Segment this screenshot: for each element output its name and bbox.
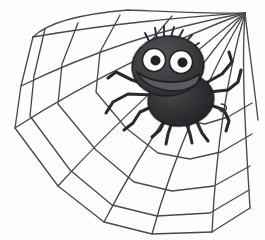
spider-web-illustration: A hand-drawn black-and-white sketch of a… (0, 0, 265, 240)
illustration-canvas (0, 0, 265, 240)
eye-left-pupil (151, 56, 161, 66)
eye-right-pupil (178, 58, 188, 68)
